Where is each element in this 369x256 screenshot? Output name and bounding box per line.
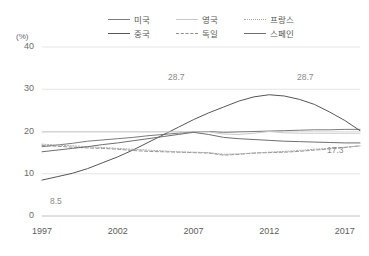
legend-swatch-icon [244, 33, 266, 34]
legend-swatch-icon [244, 19, 266, 20]
x-axis-tick: 2012 [249, 226, 289, 236]
series-line [42, 132, 360, 151]
legend-item[interactable]: 중국 [108, 27, 172, 39]
legend-item[interactable]: 스페인 [244, 27, 308, 39]
series-line [42, 95, 360, 180]
y-axis-tick: 10 [8, 168, 34, 178]
legend-label: 영국 [202, 13, 218, 25]
legend-label: 미국 [134, 13, 150, 25]
legend-swatch-icon [176, 19, 198, 20]
legend-label: 스페인 [270, 27, 293, 39]
legend-swatch-icon [108, 33, 130, 34]
data-value-label: 28.7 [297, 72, 314, 82]
x-axis-tick: 2002 [98, 226, 138, 236]
y-axis-tick: 40 [8, 41, 34, 51]
x-axis-tick: 2007 [173, 226, 213, 236]
legend-item[interactable]: 미국 [108, 13, 172, 25]
data-value-label: 28.7 [168, 72, 185, 82]
legend-label: 독일 [202, 27, 218, 39]
data-value-label: 17.3 [327, 145, 344, 155]
legend-label: 중국 [134, 27, 150, 39]
chart-legend: 미국영국프랑스중국독일스페인 [108, 12, 308, 40]
y-axis-tick: 20 [8, 126, 34, 136]
y-axis-tick: 0 [8, 210, 34, 220]
y-axis-tick: 30 [8, 83, 34, 93]
legend-item[interactable]: 독일 [176, 27, 240, 39]
legend-swatch-icon [176, 33, 198, 34]
legend-item[interactable]: 프랑스 [244, 13, 308, 25]
legend-swatch-icon [108, 19, 130, 20]
legend-item[interactable]: 영국 [176, 13, 240, 25]
y-axis-unit-label: (%) [16, 32, 28, 41]
legend-label: 프랑스 [270, 13, 293, 25]
x-axis-tick: 2017 [325, 226, 365, 236]
chart-container: (%) 미국영국프랑스중국독일스페인 010203040 19972002200… [0, 0, 369, 256]
data-value-label: 8.5 [50, 196, 62, 206]
x-axis-tick: 1997 [22, 226, 62, 236]
